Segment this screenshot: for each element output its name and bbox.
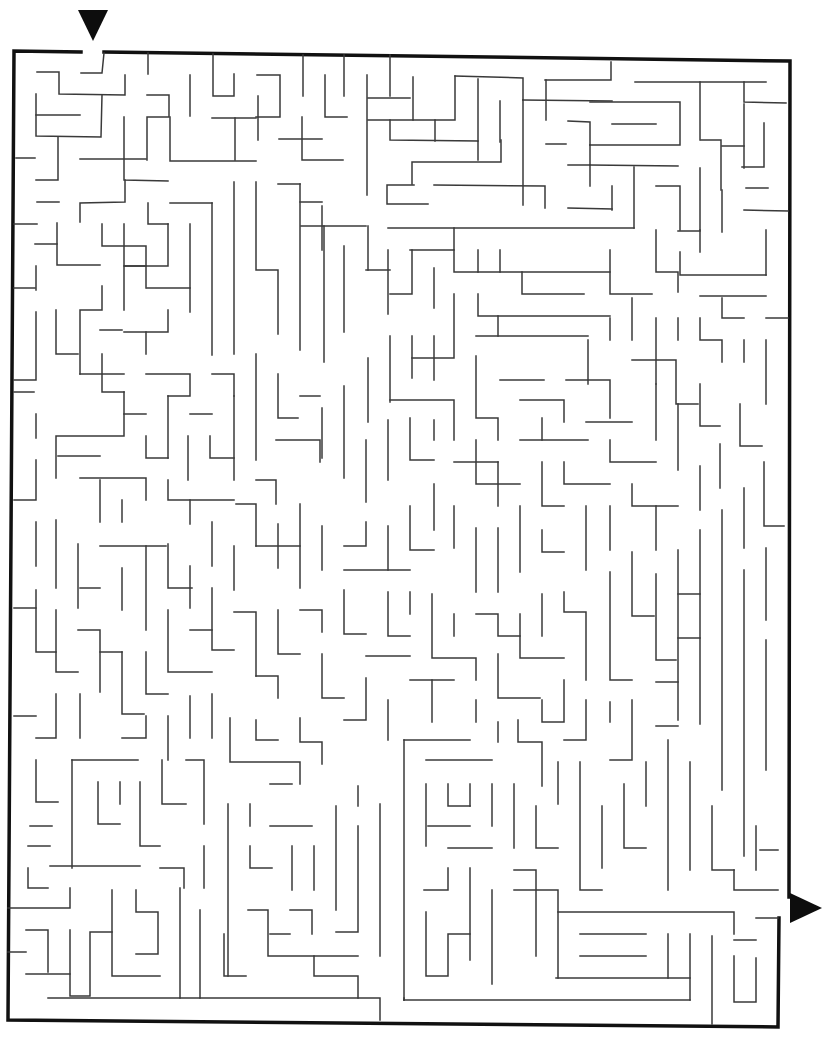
exit-arrow-icon bbox=[790, 893, 822, 923]
entry-arrow-icon bbox=[78, 10, 108, 41]
maze-walls bbox=[8, 53, 788, 1024]
maze-board bbox=[0, 0, 822, 1038]
